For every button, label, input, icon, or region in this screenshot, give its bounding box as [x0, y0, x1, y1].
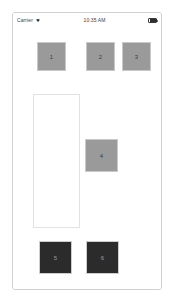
app-content: 1 2 3 4 5 6: [13, 27, 161, 289]
status-bar-right: [148, 18, 157, 23]
tile-label: 1: [50, 54, 53, 60]
tile-label: 4: [100, 153, 103, 159]
status-bar: Carrier 10:35 AM: [13, 13, 161, 27]
tile-6[interactable]: 6: [86, 241, 119, 274]
tile-4[interactable]: 4: [85, 139, 118, 172]
tile-label: 3: [135, 54, 138, 60]
battery-full-icon: [148, 18, 157, 23]
tile-label: 6: [101, 255, 104, 261]
tile-label: 2: [99, 54, 102, 60]
tile-label: 5: [54, 255, 57, 261]
tile-1[interactable]: 1: [37, 42, 66, 71]
status-bar-left: Carrier: [17, 17, 41, 23]
tile-3[interactable]: 3: [122, 42, 151, 71]
tile-5[interactable]: 5: [39, 241, 72, 274]
carrier-label: Carrier: [17, 18, 33, 23]
tile-2[interactable]: 2: [86, 42, 115, 71]
screenshot-root: Carrier 10:35 AM 1 2: [0, 0, 172, 302]
device-frame: Carrier 10:35 AM 1 2: [12, 12, 162, 290]
status-bar-time: 10:35 AM: [41, 17, 148, 23]
content-panel[interactable]: [33, 94, 80, 228]
